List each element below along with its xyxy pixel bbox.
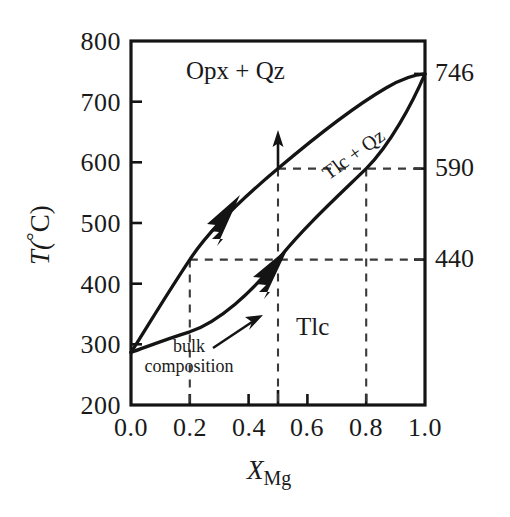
- x-axis-title-symbol: X: [247, 455, 264, 485]
- x-tick-label-06: 0.6: [277, 413, 337, 443]
- right-axis-label-440: 440: [435, 244, 474, 274]
- x-tick-label-00: 0.0: [101, 413, 161, 443]
- y-axis-ticks: [131, 102, 142, 345]
- x-tick-label-08: 0.8: [336, 413, 396, 443]
- y-axis-title: T(°C): [22, 205, 56, 265]
- region-label-opx-qz: Opx + Qz: [186, 57, 285, 85]
- x-tick-label-02: 0.2: [160, 413, 220, 443]
- degree-sign-icon: °: [22, 232, 46, 241]
- bulk-composition-annotation: bulk composition: [133, 336, 245, 376]
- x-axis-title: XMg: [247, 455, 291, 490]
- region-label-tlc: Tlc: [296, 313, 329, 341]
- y-tick-label-600: 600: [55, 148, 121, 178]
- x-axis-title-subscript: Mg: [264, 467, 292, 489]
- y-tick-label-700: 700: [55, 88, 121, 118]
- bulk-composition-line2: composition: [133, 356, 245, 376]
- upper-curve-reaction-arrow: [207, 195, 240, 246]
- bulk-composition-line1: bulk: [133, 336, 245, 356]
- y-axis-title-unit: C): [25, 205, 55, 232]
- right-axis-label-590: 590: [435, 153, 474, 183]
- y-tick-label-400: 400: [55, 270, 121, 300]
- y-tick-label-500: 500: [55, 209, 121, 239]
- right-axis-ticks: [414, 74, 425, 260]
- x-tick-label-04: 0.4: [219, 413, 279, 443]
- y-axis-title-symbol: T(: [25, 241, 55, 265]
- lower-curve-reaction-arrow: [253, 248, 288, 299]
- x-tick-label-10: 1.0: [395, 413, 455, 443]
- y-tick-label-300: 300: [55, 330, 121, 360]
- y-tick-label-800: 800: [55, 27, 121, 57]
- phase-diagram-figure: 800 700 600 500 400 300 200 0.0 0.2 0.4 …: [0, 0, 510, 517]
- right-axis-label-746: 746: [435, 58, 474, 88]
